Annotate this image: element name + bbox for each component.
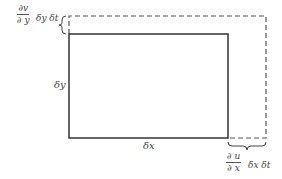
left-brace-icon: [59, 16, 66, 34]
top-annotation-denominator: ∂ y: [17, 15, 30, 25]
right-annotation-numerator: ∂ u: [226, 152, 241, 163]
width-label: δx: [143, 140, 155, 151]
original-element-rectangle: [69, 34, 228, 138]
top-annotation-suffix: δy δt: [36, 13, 58, 23]
right-annotation-suffix: δx δt: [248, 160, 270, 170]
top-annotation-fraction: ∂v ∂ y: [17, 4, 30, 25]
height-label: δy: [54, 79, 66, 90]
bottom-brace-icon: [228, 142, 266, 150]
right-annotation-denominator: ∂ x: [227, 163, 240, 173]
right-annotation-fraction: ∂ u ∂ x: [226, 152, 241, 173]
top-annotation-numerator: ∂v: [17, 4, 29, 15]
